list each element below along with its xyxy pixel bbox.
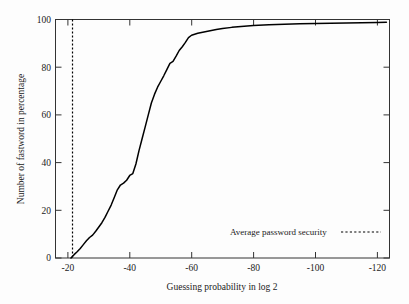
x-tick-label: -100 xyxy=(307,263,325,273)
y-axis-title: Number of fastword in percentage xyxy=(16,74,26,204)
x-tick-label: -40 xyxy=(123,263,136,273)
x-tick-label: -20 xyxy=(62,263,75,273)
chart-figure: 100 80 60 40 20 0 -20 -40 -60 -80 -100 -… xyxy=(0,0,409,304)
x-axis-ticks xyxy=(68,20,378,259)
plot-frame xyxy=(56,20,390,259)
y-tick-label: 20 xyxy=(42,206,52,216)
y-tick-label: 0 xyxy=(46,253,51,263)
y-tick-label: 80 xyxy=(42,63,52,73)
x-tick-label: -60 xyxy=(185,263,198,273)
x-axis-title: Guessing probability in log 2 xyxy=(167,282,278,292)
y-tick-labels: 100 80 60 40 20 0 xyxy=(37,15,52,263)
y-tick-label: 100 xyxy=(37,15,52,25)
y-axis-ticks xyxy=(56,20,390,259)
x-tick-labels: -20 -40 -60 -80 -100 -120 xyxy=(62,263,387,273)
x-tick-label: -120 xyxy=(369,263,387,273)
legend: Average password security xyxy=(230,227,381,237)
cumulative-distribution-curve xyxy=(71,22,386,258)
x-tick-label: -80 xyxy=(247,263,260,273)
y-tick-label: 60 xyxy=(42,110,52,120)
chart-canvas: 100 80 60 40 20 0 -20 -40 -60 -80 -100 -… xyxy=(0,0,409,304)
y-tick-label: 40 xyxy=(42,158,52,168)
legend-label-average-password-security: Average password security xyxy=(230,227,327,237)
